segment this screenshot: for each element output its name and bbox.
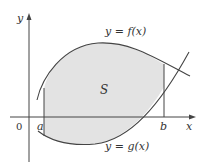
region-label: S [100, 83, 108, 97]
x-axis-arrow-icon [189, 115, 196, 120]
f-curve-label: y = f(x) [104, 25, 146, 38]
g-curve-label: y = g(x) [104, 140, 149, 153]
a-label: a [37, 120, 44, 133]
b-label: b [160, 120, 167, 133]
y-axis-label: y [16, 12, 24, 25]
x-axis-label: x [186, 120, 193, 133]
origin-label: 0 [16, 121, 22, 132]
y-axis-arrow-icon [27, 13, 32, 20]
area-diagram: y x 0 a b S y = f(x) y = g(x) [0, 0, 208, 168]
